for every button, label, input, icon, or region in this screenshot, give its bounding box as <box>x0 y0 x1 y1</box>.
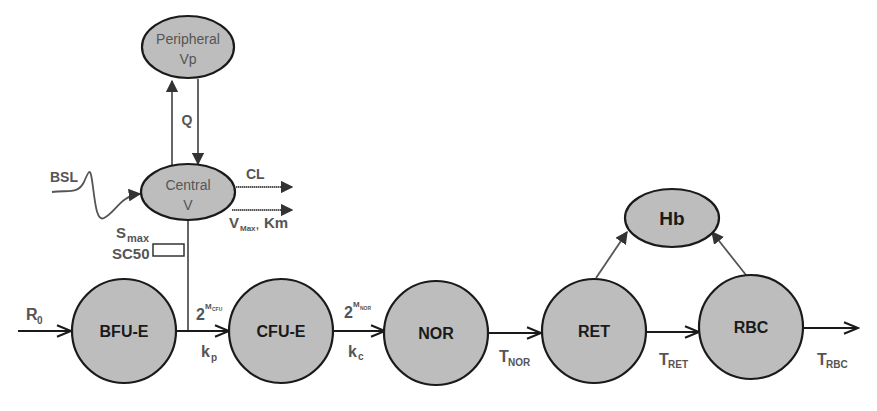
cfu-e-node: CFU-E <box>229 279 333 383</box>
svg-text:Km: Km <box>264 214 288 231</box>
svg-text:k: k <box>348 343 357 360</box>
svg-text:RET: RET <box>668 359 688 370</box>
ret-node: RET <box>542 279 646 383</box>
svg-text:NOR: NOR <box>360 305 372 311</box>
vmax-km-label: V Max , Km <box>229 214 288 233</box>
svg-text:CFU: CFU <box>212 306 223 312</box>
bfu-e-node: BFU-E <box>72 279 176 383</box>
svg-text:Central: Central <box>165 177 210 193</box>
bsl-label: BSL <box>50 169 78 185</box>
svg-text:RET: RET <box>578 323 610 340</box>
q-label: Q <box>182 112 193 128</box>
svg-text:max: max <box>127 232 150 244</box>
svg-text:CFU-E: CFU-E <box>257 323 306 340</box>
svg-text:V: V <box>183 197 193 213</box>
smax-sc50-label: S max SC50 <box>112 224 150 262</box>
r0-label: R 0 <box>26 306 43 326</box>
svg-text:S: S <box>116 224 126 241</box>
svg-text:Vp: Vp <box>179 51 196 67</box>
svg-text:V: V <box>229 214 239 231</box>
svg-text:2: 2 <box>344 304 353 321</box>
hb-node: Hb <box>625 189 719 247</box>
t-ret-label: T RET <box>659 351 688 370</box>
svg-text:Hb: Hb <box>659 208 684 229</box>
stimulation-effect-box <box>153 244 184 256</box>
erythropoiesis-model-diagram: Q BSL CL V Max , Km S max SC50 Periphera… <box>0 0 877 411</box>
central-compartment: Central V <box>141 164 235 220</box>
svg-text:0: 0 <box>37 315 43 326</box>
rbc-node: RBC <box>699 275 803 379</box>
m-cfu-label: 2 M CFU <box>196 302 223 323</box>
t-nor-label: T NOR <box>499 348 531 368</box>
cl-label: CL <box>246 166 265 182</box>
svg-text:SC50: SC50 <box>112 245 150 262</box>
peripheral-compartment: Peripheral Vp <box>142 16 234 78</box>
svg-text:RBC: RBC <box>734 319 769 336</box>
svg-text:M: M <box>205 302 212 311</box>
kc-label: k c <box>348 343 364 362</box>
svg-text:2: 2 <box>196 306 205 323</box>
svg-text:p: p <box>211 352 217 363</box>
m-nor-label: 2 M NOR <box>344 300 372 321</box>
svg-text:k: k <box>201 343 210 360</box>
svg-text:Peripheral: Peripheral <box>156 31 220 47</box>
svg-text:Max: Max <box>240 224 256 233</box>
svg-text:c: c <box>358 351 364 362</box>
svg-text:NOR: NOR <box>418 325 454 342</box>
ret-to-hb-arrow <box>596 232 627 278</box>
kp-label: k p <box>201 343 217 363</box>
rbc-to-hb-arrow <box>712 232 746 275</box>
nor-node: NOR <box>384 281 488 385</box>
svg-text:M: M <box>353 300 360 309</box>
svg-text:,: , <box>256 220 259 231</box>
t-rbc-label: T RBC <box>817 351 848 370</box>
svg-text:BFU-E: BFU-E <box>100 323 149 340</box>
svg-text:NOR: NOR <box>508 357 531 368</box>
svg-text:RBC: RBC <box>826 359 848 370</box>
